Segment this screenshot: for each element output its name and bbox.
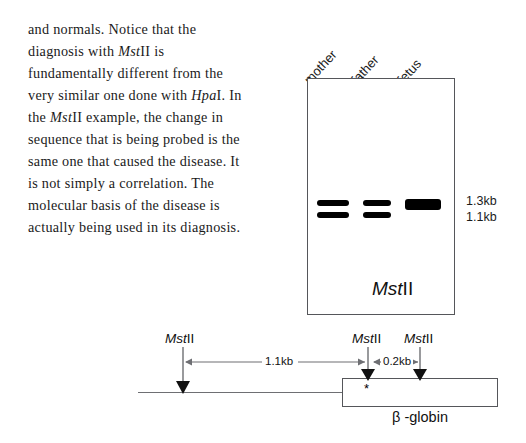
body-text-line: molecular basis of the disease is xyxy=(28,194,278,216)
gel-size-marker-1.3kb: 1.3kb xyxy=(466,193,497,209)
gel-band-father-1.1kb xyxy=(363,212,391,218)
body-text-line: same one that caused the disease. It xyxy=(28,150,278,172)
dna-backbone-line xyxy=(138,392,344,393)
body-text-block: and normals. Notice that the diagnosis w… xyxy=(28,18,278,238)
map-site-label-middle: MstII xyxy=(352,331,381,346)
map-site-label-left-roman: II xyxy=(187,331,195,346)
body-text-line: the MstII example, the change in xyxy=(28,106,278,128)
dimension-label-0.2kb: 0.2kb xyxy=(381,355,413,367)
map-site-label-right-italic: Mst xyxy=(404,331,426,346)
map-site-label-middle-roman: II xyxy=(374,331,382,346)
figure-page: and normals. Notice that the diagnosis w… xyxy=(0,0,526,443)
map-site-label-left: MstII xyxy=(165,331,194,346)
body-text-line: fundamentally different from the xyxy=(28,62,278,84)
gel-band-father-1.3kb xyxy=(363,200,391,206)
gel-enzyme-caption-roman: II xyxy=(403,278,414,299)
gel-size-marker-1.1kb: 1.1kb xyxy=(466,209,497,225)
map-site-label-right-roman: II xyxy=(426,331,434,346)
mutation-asterisk: * xyxy=(364,382,369,395)
dimension-label-1.1kb: 1.1kb xyxy=(263,355,295,367)
body-text-line: diagnosis with MstII is xyxy=(28,40,278,62)
body-text-line: very similar one done with HpaI. In xyxy=(28,84,278,106)
body-text-line: and normals. Notice that the xyxy=(28,18,278,40)
gel-size-marker-list: 1.3kb 1.1kb xyxy=(466,193,497,225)
gel-band-mother-1.1kb xyxy=(317,212,349,218)
map-site-label-middle-italic: Mst xyxy=(352,331,374,346)
gel-band-mother-1.3kb xyxy=(317,200,349,206)
gel-enzyme-caption-italic: Mst xyxy=(372,278,403,299)
map-site-label-left-italic: Mst xyxy=(165,331,187,346)
body-text-line: is not simply a correlation. The xyxy=(28,172,278,194)
map-site-label-right: MstII xyxy=(404,331,433,346)
beta-globin-gene-label: β -globin xyxy=(342,409,498,425)
body-text-line: sequence that is being probed is the xyxy=(28,128,278,150)
gel-enzyme-caption: MstII xyxy=(372,278,413,300)
body-text-line: actually being used in its diagnosis. xyxy=(28,216,278,238)
gel-band-fetus-1.3kb xyxy=(405,199,441,210)
